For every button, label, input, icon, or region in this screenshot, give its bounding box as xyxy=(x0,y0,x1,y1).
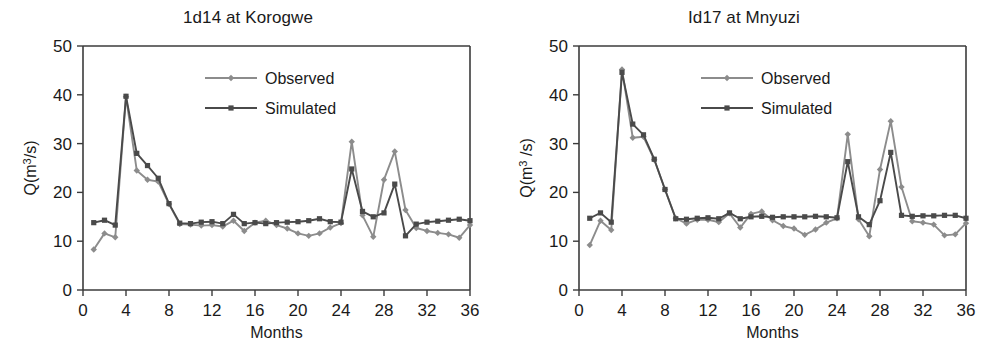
legend-entry-simulated[interactable]: Simulated xyxy=(701,100,832,117)
data-point-marker xyxy=(920,219,926,225)
data-point-marker xyxy=(748,214,753,219)
data-point-marker xyxy=(770,215,775,220)
data-point-marker xyxy=(738,216,743,221)
legend-entry-observed[interactable]: Observed xyxy=(205,70,334,87)
legend-entry-simulated[interactable]: Simulated xyxy=(205,100,336,117)
y-tick-label: 50 xyxy=(53,37,72,56)
data-point-marker xyxy=(834,215,839,220)
data-point-marker xyxy=(910,214,915,219)
x-tick-label: 0 xyxy=(78,301,87,320)
data-point-marker xyxy=(145,163,150,168)
data-point-marker xyxy=(360,209,365,214)
x-tick-label: 4 xyxy=(121,301,130,320)
data-point-marker xyxy=(349,166,354,171)
data-point-marker xyxy=(263,221,268,226)
data-point-marker xyxy=(727,210,732,215)
legend-marker-simulated xyxy=(724,105,729,110)
data-point-marker xyxy=(813,214,818,219)
chart-panel-korogwe: 1d14 at Korogwe 010203040500481216202428… xyxy=(0,0,496,350)
data-point-marker xyxy=(381,210,386,215)
data-point-marker xyxy=(877,198,882,203)
data-point-marker xyxy=(285,220,290,225)
data-point-marker xyxy=(102,218,107,223)
data-point-marker xyxy=(587,216,592,221)
data-point-marker xyxy=(587,242,593,248)
chart-canvas-korogwe: 0102030405004812162024283236MonthsQ(m3/s… xyxy=(0,0,496,350)
data-point-marker xyxy=(824,214,829,219)
data-point-marker xyxy=(942,213,947,218)
data-point-marker xyxy=(630,135,636,141)
data-point-marker xyxy=(134,151,139,156)
data-point-marker xyxy=(845,131,851,137)
legend-label-simulated: Simulated xyxy=(265,100,336,117)
data-point-marker xyxy=(445,231,451,237)
data-point-marker xyxy=(274,220,279,225)
data-point-marker xyxy=(467,218,472,223)
data-point-marker xyxy=(931,213,936,218)
data-point-marker xyxy=(963,216,968,221)
series-simulated xyxy=(587,70,968,227)
x-tick-label: 16 xyxy=(742,301,761,320)
data-point-marker xyxy=(457,217,462,222)
series-line-observed xyxy=(590,69,966,245)
data-point-marker xyxy=(242,221,247,226)
x-axis-title: Months xyxy=(250,324,302,341)
data-point-marker xyxy=(370,234,376,240)
data-point-marker xyxy=(91,220,96,225)
data-point-marker xyxy=(156,176,161,181)
x-tick-label: 12 xyxy=(203,301,222,320)
data-point-marker xyxy=(652,157,657,162)
y-tick-label: 20 xyxy=(53,183,72,202)
data-point-marker xyxy=(209,219,214,224)
data-point-marker xyxy=(791,214,796,219)
x-tick-label: 4 xyxy=(617,301,626,320)
series-line-simulated xyxy=(590,72,966,224)
data-point-marker xyxy=(349,138,355,144)
data-point-marker xyxy=(177,221,182,226)
data-point-marker xyxy=(695,216,700,221)
x-tick-label: 32 xyxy=(418,301,437,320)
data-point-marker xyxy=(123,94,128,99)
data-point-marker xyxy=(673,216,678,221)
data-point-marker xyxy=(392,182,397,187)
data-point-marker xyxy=(662,187,667,192)
legend-label-observed: Observed xyxy=(761,70,830,87)
data-point-marker xyxy=(403,233,408,238)
data-point-marker xyxy=(338,220,343,225)
data-point-marker xyxy=(802,214,807,219)
data-point-marker xyxy=(295,230,301,236)
y-tick-label: 0 xyxy=(559,281,568,300)
y-tick-label: 10 xyxy=(549,232,568,251)
y-tick-label: 50 xyxy=(549,37,568,56)
x-tick-label: 8 xyxy=(660,301,669,320)
legend-label-observed: Observed xyxy=(265,70,334,87)
x-axis-title: Months xyxy=(746,324,798,341)
y-tick-label: 0 xyxy=(63,281,72,300)
data-point-marker xyxy=(716,216,721,221)
data-point-marker xyxy=(888,150,893,155)
x-tick-label: 20 xyxy=(289,301,308,320)
y-tick-label: 30 xyxy=(549,135,568,154)
data-point-marker xyxy=(641,132,646,137)
data-point-marker xyxy=(424,228,430,234)
data-point-marker xyxy=(435,230,441,236)
figure-two-panel-hydrographs: 1d14 at Korogwe 010203040500481216202428… xyxy=(0,0,992,350)
series-line-simulated xyxy=(94,96,470,236)
data-point-marker xyxy=(284,225,290,231)
data-point-marker xyxy=(414,222,419,227)
data-point-marker xyxy=(705,215,710,220)
data-point-marker xyxy=(609,220,614,225)
series-observed xyxy=(91,94,474,253)
data-point-marker xyxy=(392,148,398,154)
x-tick-label: 36 xyxy=(957,301,976,320)
legend-entry-observed[interactable]: Observed xyxy=(701,70,830,87)
legend-marker-observed xyxy=(228,75,234,81)
data-point-marker xyxy=(113,222,118,227)
data-point-marker xyxy=(759,214,764,219)
data-point-marker xyxy=(888,118,894,124)
data-point-marker xyxy=(953,213,958,218)
data-point-marker xyxy=(166,201,171,206)
data-point-marker xyxy=(112,234,118,240)
data-point-marker xyxy=(317,216,322,221)
data-point-marker xyxy=(684,217,689,222)
